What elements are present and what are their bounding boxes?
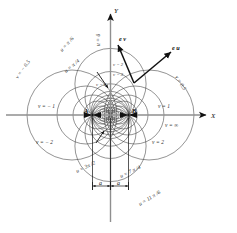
label-v-inf: v = ∞ <box>165 122 178 128</box>
focus-label-B: B <box>131 107 137 114</box>
label-u-pi4: u = π /4 <box>63 57 81 73</box>
dimension-label-a-left: a <box>99 180 102 186</box>
label-u-11pi6: u = 11 π /6 <box>137 189 161 207</box>
label-v-inner-upper: v = 2 <box>113 62 124 67</box>
figure-canvas: X Y A B e v e u v = − 0.5 v = − 1 v = − … <box>0 0 237 233</box>
dimension-label-a-right: a <box>117 180 120 186</box>
label-v-neg-2: v = − 2 <box>36 139 53 145</box>
label-v-pos-2: v = 2 <box>152 139 164 145</box>
e-v-label: e v <box>119 35 126 42</box>
focus-label-A: A <box>83 107 88 114</box>
label-v-neg-1: v = − 1 <box>38 103 55 109</box>
label-u-7pi4: u = 7 π /4 <box>119 164 142 179</box>
e-u-arrow <box>134 52 171 83</box>
label-v-pos-1: v = 1 <box>158 103 170 109</box>
unit-vector-arrows <box>118 45 171 83</box>
label-v-inner-mid: v = 3 <box>113 72 124 77</box>
e-u-label: e u <box>172 44 180 51</box>
y-axis-label: Y <box>114 7 119 15</box>
label-u-0: u = 0 <box>95 34 101 46</box>
label-v-pos-0p5: v = 0.5 <box>174 74 188 91</box>
bipolar-coordinate-diagram: X Y A B e v e u v = − 0.5 v = − 1 v = − … <box>0 0 237 233</box>
x-axis-label: X <box>210 112 216 120</box>
label-u-pi6: u = π /6 <box>58 35 75 53</box>
label-v-inner-lower: v = 4 <box>96 82 107 87</box>
label-v-neg-0p5: v = − 0.5 <box>14 58 31 79</box>
